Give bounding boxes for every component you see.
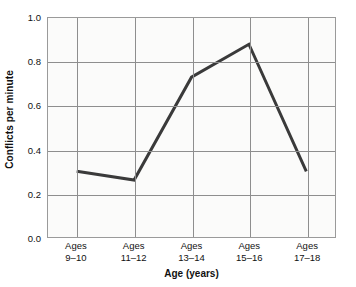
- y-tick-label: 0.8: [28, 56, 41, 67]
- y-tick-label: 0.6: [28, 100, 41, 111]
- x-tick-label-line: 15–16: [236, 252, 262, 264]
- gridline-vertical: [135, 18, 136, 237]
- series-polyline: [77, 44, 307, 180]
- chart-figure: Conflicts per minute 0.00.20.40.60.81.0 …: [0, 0, 356, 287]
- y-tick-label: 0.2: [28, 188, 41, 199]
- gridline-vertical: [77, 18, 78, 237]
- y-tick-label: 0.0: [28, 233, 41, 244]
- y-tick-label: 1.0: [28, 12, 41, 23]
- x-axis-title: Age (years): [47, 268, 336, 279]
- gridline-horizontal: [48, 62, 335, 63]
- x-tick-label-line: Ages: [121, 240, 147, 252]
- gridline-vertical: [308, 18, 309, 237]
- x-tick-label: Ages15–16: [236, 240, 262, 263]
- x-tick-label-line: 9–10: [65, 252, 87, 264]
- x-axis-tick-labels: Ages9–10Ages11–12Ages13–14Ages15–16Ages1…: [47, 240, 336, 270]
- x-tick-label-line: 13–14: [178, 252, 204, 264]
- x-tick-label: Ages9–10: [65, 240, 87, 263]
- y-axis-tick-labels: 0.00.20.40.60.81.0: [16, 0, 44, 287]
- x-tick-label-line: Ages: [178, 240, 204, 252]
- x-tick-label-line: 11–12: [121, 252, 147, 264]
- data-series-line: [48, 18, 335, 237]
- x-tick-label-line: Ages: [65, 240, 87, 252]
- y-axis-title-text: Conflicts per minute: [4, 70, 15, 169]
- gridline-horizontal: [48, 195, 335, 196]
- x-tick-label: Ages13–14: [178, 240, 204, 263]
- gridline-horizontal: [48, 151, 335, 152]
- gridline-vertical: [193, 18, 194, 237]
- x-tick-label-line: Ages: [294, 240, 320, 252]
- x-tick-label: Ages17–18: [294, 240, 320, 263]
- gridline-horizontal: [48, 106, 335, 107]
- y-tick-label: 0.4: [28, 144, 41, 155]
- x-tick-label: Ages11–12: [121, 240, 147, 263]
- x-tick-label-line: 17–18: [294, 252, 320, 264]
- plot-area: [47, 17, 336, 238]
- gridline-vertical: [250, 18, 251, 237]
- x-tick-label-line: Ages: [236, 240, 262, 252]
